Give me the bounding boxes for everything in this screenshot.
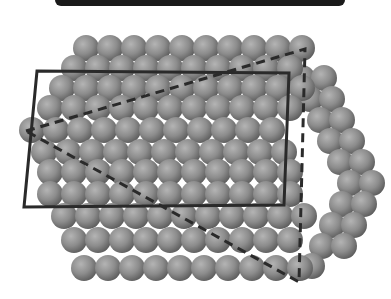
sphere: [191, 255, 217, 281]
sphere: [85, 95, 111, 121]
sphere: [157, 95, 183, 121]
sphere: [243, 203, 269, 229]
sphere: [229, 95, 255, 121]
sphere: [163, 117, 189, 143]
sphere: [205, 95, 231, 121]
sphere: [143, 255, 169, 281]
sphere: [133, 95, 159, 121]
sphere: [291, 203, 317, 229]
sphere: [181, 95, 207, 121]
sphere: [181, 227, 207, 253]
crystal-figure: [0, 0, 391, 299]
sphere: [85, 227, 111, 253]
sphere-packing-diagram: [0, 0, 391, 299]
sphere: [259, 117, 285, 143]
sphere: [187, 117, 213, 143]
sphere: [71, 255, 97, 281]
sphere: [239, 255, 265, 281]
sphere: [215, 255, 241, 281]
sphere: [167, 255, 193, 281]
sphere: [133, 227, 159, 253]
sphere: [205, 227, 231, 253]
sphere: [109, 227, 135, 253]
sphere: [157, 227, 183, 253]
sphere: [139, 117, 165, 143]
sphere: [95, 255, 121, 281]
sphere: [263, 255, 289, 281]
sphere: [267, 203, 293, 229]
sphere: [235, 117, 261, 143]
sphere: [115, 117, 141, 143]
sphere: [61, 227, 87, 253]
sphere: [211, 117, 237, 143]
sphere: [277, 95, 303, 121]
sphere: [37, 95, 63, 121]
sphere: [331, 233, 357, 259]
sphere: [253, 227, 279, 253]
sphere: [119, 255, 145, 281]
sphere: [253, 95, 279, 121]
sphere: [91, 117, 117, 143]
sphere: [67, 117, 93, 143]
sphere: [37, 181, 63, 207]
